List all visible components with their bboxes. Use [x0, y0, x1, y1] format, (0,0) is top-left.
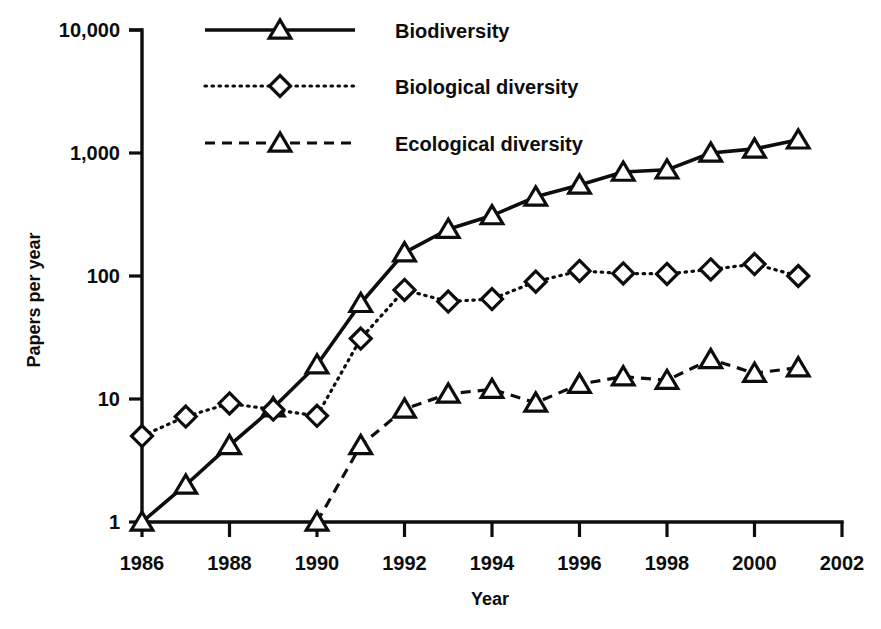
diamond-marker	[132, 426, 153, 447]
triangle-marker	[437, 384, 459, 402]
x-axis-title: Year	[471, 589, 509, 609]
x-tick-label: 2000	[732, 552, 777, 574]
diamond-marker	[525, 271, 546, 292]
series-line	[317, 359, 798, 522]
diamond-marker	[788, 266, 809, 287]
diamond-marker	[270, 76, 291, 97]
diamond-marker	[569, 260, 590, 281]
legend-entry: Ecological diversity	[205, 133, 584, 155]
diamond-marker	[394, 279, 415, 300]
data-series-group	[131, 130, 809, 530]
diamond-marker	[307, 405, 328, 426]
x-tick-label: 1988	[207, 552, 252, 574]
x-tick-label: 1994	[470, 552, 515, 574]
legend-entry: Biological diversity	[205, 76, 579, 99]
x-tick-label: 1986	[120, 552, 165, 574]
diamond-marker	[482, 289, 503, 310]
x-tick-label: 1990	[295, 552, 340, 574]
diamond-marker	[700, 259, 721, 280]
y-axis-tick-labels: 10,0001,000100101	[59, 19, 120, 533]
diamond-marker	[438, 291, 459, 312]
x-axis-tick-labels: 198619881990199219941996199820002002	[120, 552, 865, 574]
diamond-marker	[657, 263, 678, 284]
chart-legend: BiodiversityBiological diversityEcologic…	[205, 20, 584, 155]
triangle-marker	[350, 435, 372, 453]
diamond-marker	[613, 263, 634, 284]
x-axis-ticks	[142, 522, 842, 537]
y-axis-ticks	[129, 30, 142, 522]
diamond-marker	[175, 406, 196, 427]
series-biological-diversity	[132, 254, 809, 447]
chart-figure: 10,0001,000100101 1986198819901992199419…	[0, 0, 881, 629]
triangle-marker	[569, 374, 591, 392]
triangle-marker	[481, 206, 503, 224]
triangle-marker	[394, 399, 416, 417]
x-tick-label: 1998	[645, 552, 690, 574]
y-tick-label: 10	[98, 388, 120, 410]
y-tick-label: 1	[109, 511, 120, 533]
y-tick-label: 10,000	[59, 19, 120, 41]
y-tick-label: 100	[87, 265, 120, 287]
series-ecological-diversity	[306, 349, 809, 530]
diamond-marker	[744, 254, 765, 275]
line-chart-svg: 10,0001,000100101 1986198819901992199419…	[0, 0, 881, 629]
y-tick-label: 1,000	[70, 142, 120, 164]
diamond-marker	[219, 393, 240, 414]
x-tick-label: 2002	[820, 552, 865, 574]
triangle-marker	[787, 358, 809, 376]
series-biodiversity	[131, 130, 809, 530]
triangle-marker	[306, 355, 328, 373]
series-line	[142, 140, 798, 522]
triangle-marker	[481, 379, 503, 397]
triangle-marker	[269, 133, 291, 151]
triangle-marker	[787, 130, 809, 148]
legend-label: Biological diversity	[395, 76, 579, 98]
y-axis-title: Papers per year	[24, 232, 44, 367]
triangle-marker	[394, 243, 416, 261]
x-tick-label: 1992	[382, 552, 427, 574]
legend-label: Ecological diversity	[395, 133, 584, 155]
x-tick-label: 1996	[557, 552, 602, 574]
series-line	[142, 264, 798, 436]
legend-entry: Biodiversity	[205, 20, 510, 42]
triangle-marker	[700, 349, 722, 367]
legend-label: Biodiversity	[395, 20, 510, 42]
